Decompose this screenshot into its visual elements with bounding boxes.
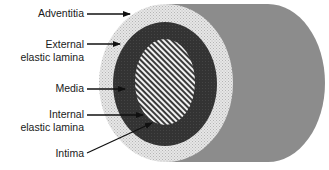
label-internal-elastic-lamina-line2: elastic lamina (20, 121, 84, 133)
label-external-elastic-lamina-line2: elastic lamina (20, 51, 84, 63)
vessel-wall-diagram: Adventitia External elastic lamina Media… (0, 0, 329, 170)
label-intima: Intima (55, 147, 84, 159)
intima-layer (135, 39, 195, 125)
label-internal-elastic-lamina-line1: Internal (49, 108, 84, 120)
label-external-elastic-lamina-line1: External (45, 38, 84, 50)
label-adventitia: Adventitia (38, 7, 84, 19)
label-media: Media (55, 82, 84, 94)
